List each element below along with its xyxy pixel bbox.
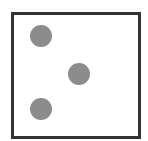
pip-center bbox=[68, 63, 90, 85]
pip-top-left bbox=[30, 25, 52, 47]
pip-bottom-left bbox=[30, 98, 52, 120]
